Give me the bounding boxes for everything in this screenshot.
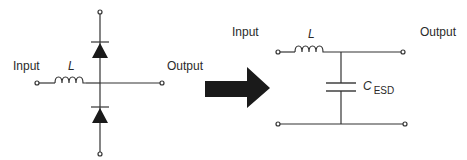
right-inductor-label: L bbox=[308, 28, 315, 40]
left-bottom-terminal bbox=[98, 152, 102, 156]
right-inductor-icon bbox=[295, 46, 327, 52]
left-top-terminal bbox=[98, 10, 102, 14]
capacitor-subscript: ESD bbox=[374, 85, 395, 96]
left-circuit bbox=[35, 10, 164, 156]
capacitor-label: CESD bbox=[363, 80, 394, 92]
left-inductor-icon bbox=[55, 77, 86, 83]
left-input-label: Input bbox=[13, 60, 40, 72]
left-output-terminal bbox=[160, 81, 164, 85]
top-diode-icon bbox=[92, 43, 108, 58]
right-input-label: Input bbox=[232, 26, 259, 38]
bottom-diode-icon bbox=[92, 108, 108, 123]
right-bottom-left-terminal bbox=[276, 122, 280, 126]
capacitor-symbol: C bbox=[363, 79, 372, 93]
right-input-terminal bbox=[276, 50, 280, 54]
left-input-terminal bbox=[35, 81, 39, 85]
transform-arrow-icon bbox=[205, 67, 270, 108]
right-bottom-right-terminal bbox=[403, 122, 407, 126]
right-output-label: Output bbox=[420, 26, 456, 38]
circuit-diagram bbox=[0, 0, 467, 160]
left-output-label: Output bbox=[167, 60, 203, 72]
left-inductor-label: L bbox=[68, 60, 75, 72]
right-output-terminal bbox=[401, 50, 405, 54]
